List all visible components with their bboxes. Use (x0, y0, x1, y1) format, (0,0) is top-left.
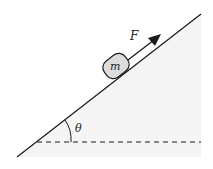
incline-diagram: θ F m (0, 0, 213, 169)
arrowhead-icon (148, 34, 161, 46)
force-label: F (129, 29, 139, 43)
mass-label: m (110, 60, 120, 73)
angle-label: θ (75, 122, 82, 135)
